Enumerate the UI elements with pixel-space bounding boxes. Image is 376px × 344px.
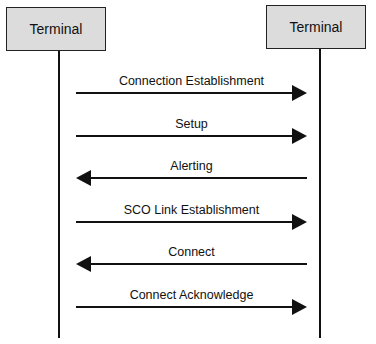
message-label: Connection Establishment [119, 74, 265, 88]
message-1: Connection Establishment [76, 74, 307, 101]
arrowhead-icon [76, 256, 91, 272]
arrowhead-icon [292, 299, 307, 315]
sequence-diagram: Connection EstablishmentSetupAlertingSCO… [0, 0, 376, 344]
message-3: Alerting [76, 159, 307, 186]
message-6: Connect Acknowledge [76, 288, 307, 315]
message-5: Connect [76, 245, 307, 272]
message-2: Setup [76, 117, 307, 144]
arrowhead-icon [292, 128, 307, 144]
message-4: SCO Link Establishment [76, 203, 307, 230]
message-label: Connect Acknowledge [130, 288, 254, 302]
message-label: SCO Link Establishment [124, 203, 260, 217]
message-label: Alerting [170, 159, 212, 173]
message-label: Setup [175, 117, 208, 131]
arrowhead-icon [292, 85, 307, 101]
message-label: Connect [168, 245, 215, 259]
arrowhead-icon [76, 170, 91, 186]
arrowhead-icon [292, 214, 307, 230]
